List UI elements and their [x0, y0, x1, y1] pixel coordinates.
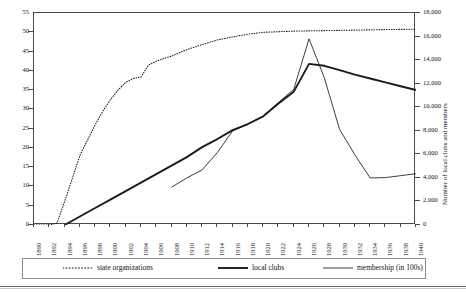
right-axis-tick-mark [415, 200, 420, 201]
right-axis-title-text: Number of local clubs and members [441, 103, 449, 205]
right-axis-tick-mark [415, 130, 420, 131]
chart-legend: state organizationslocal clubsmembership… [22, 258, 426, 279]
x-axis-tick-label: 1918 [250, 243, 257, 256]
series-line-state-organizations [34, 29, 416, 225]
right-axis-tick-label: 10,000 [423, 103, 441, 110]
right-axis-tick-label: 18,000 [423, 9, 441, 16]
right-axis-tick-mark [415, 83, 420, 84]
x-axis-tick-mark [125, 224, 126, 227]
page-divider-shadow [0, 288, 466, 289]
x-axis-tick-mark [232, 224, 233, 227]
x-axis-tick-mark [415, 224, 416, 227]
x-axis-tick-label: 1912 [204, 243, 211, 256]
right-axis-tick-mark [415, 36, 420, 37]
x-axis-tick-mark [277, 224, 278, 227]
legend-item: local clubs [218, 263, 284, 272]
x-axis-tick-label: 1926 [311, 243, 318, 256]
right-axis-tick-label: 0 [423, 221, 426, 228]
right-axis-tick-label: 8,000 [423, 127, 438, 134]
x-axis-tick-label: 1936 [387, 243, 394, 256]
plot-area [33, 12, 415, 224]
x-axis-tick-mark [171, 224, 172, 227]
x-axis-tick-mark [201, 224, 202, 227]
x-axis-tick-mark [354, 224, 355, 227]
right-axis-tick-mark [415, 177, 420, 178]
x-axis-tick-label: 1906 [158, 243, 165, 256]
x-axis-tick-label: 1916 [235, 243, 242, 256]
x-axis-tick-mark [293, 224, 294, 227]
x-axis-tick-mark [155, 224, 156, 227]
x-axis-tick-mark [308, 224, 309, 227]
legend-item: membership (in 100s) [323, 263, 423, 272]
x-axis-tick-label: 1898 [97, 243, 104, 256]
x-axis-tick-mark [369, 224, 370, 227]
x-axis-tick-mark [79, 224, 80, 227]
x-axis-tick-label: 1930 [342, 243, 349, 256]
chart-figure: 0510152025303540455055 02,0004,0006,0008… [0, 0, 466, 292]
legend-label: local clubs [252, 263, 284, 272]
x-axis-tick-label: 1892 [51, 243, 58, 256]
right-axis-tick-mark [415, 153, 420, 154]
x-axis-tick-label: 1890 [36, 243, 43, 256]
x-axis-tick-mark [186, 224, 187, 227]
x-axis-tick-label: 1922 [280, 243, 287, 256]
x-axis-tick-label: 1894 [67, 243, 74, 256]
x-axis-tick-mark [339, 224, 340, 227]
x-axis-tick-label: 1938 [403, 243, 410, 256]
right-axis-tick-label: 4,000 [423, 174, 438, 181]
x-axis-tick-label: 1934 [372, 243, 379, 256]
legend-swatch-icon [63, 264, 93, 271]
x-axis-tick-label: 1932 [357, 243, 364, 256]
x-axis-tick-label: 1896 [82, 243, 89, 256]
x-axis-tick-mark [48, 224, 49, 227]
right-axis-tick-mark [415, 12, 420, 13]
x-axis-tick-label: 1928 [326, 243, 333, 256]
x-axis-tick-label: 1900 [112, 243, 119, 256]
x-axis-tick-mark [94, 224, 95, 227]
left-axis-tick-label: 55 [23, 9, 30, 16]
x-axis-tick-label: 1920 [265, 243, 272, 256]
legend-item: state organizations [63, 263, 153, 272]
x-axis-tick-mark [140, 224, 141, 227]
x-axis-tick-mark [216, 224, 217, 227]
x-axis-tick-label: 1904 [143, 243, 150, 256]
right-axis-tick-label: 2,000 [423, 197, 438, 204]
legend-swatch-icon [323, 264, 353, 271]
x-axis-tick-mark [64, 224, 65, 227]
legend-label: state organizations [97, 263, 153, 272]
x-axis-tick-mark [262, 224, 263, 227]
plot-lines [34, 13, 416, 225]
x-axis-tick-mark [247, 224, 248, 227]
right-axis-tick-mark [415, 106, 420, 107]
left-axis: 0510152025303540455055 [0, 0, 33, 236]
series-line-membership-in-100s- [172, 39, 416, 187]
x-axis-tick-label: 1902 [128, 243, 135, 256]
right-axis-tick-label: 16,000 [423, 33, 441, 40]
right-axis-tick-label: 14,000 [423, 56, 441, 63]
x-axis-tick-label: 1910 [189, 243, 196, 256]
x-axis-tick-mark [323, 224, 324, 227]
x-axis-tick-mark [384, 224, 385, 227]
legend-swatch-icon [218, 264, 248, 271]
x-axis-tick-mark [33, 224, 34, 227]
page-divider [0, 286, 466, 287]
x-axis-tick-mark [400, 224, 401, 227]
series-line-local-clubs [65, 64, 416, 225]
x-axis-tick-mark [109, 224, 110, 227]
x-axis-tick-label: 1914 [219, 243, 226, 256]
legend-label: membership (in 100s) [357, 263, 423, 272]
right-axis-tick-mark [415, 59, 420, 60]
right-axis-tick-label: 6,000 [423, 150, 438, 157]
right-axis-tick-label: 12,000 [423, 80, 441, 87]
x-axis-tick-label: 1924 [296, 243, 303, 256]
x-axis-tick-label: 1908 [174, 243, 181, 256]
x-axis-tick-label: 1940 [418, 243, 425, 256]
